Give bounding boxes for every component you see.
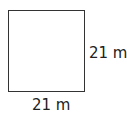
bottom-side-length-label: 21 m	[32, 98, 70, 113]
right-side-length-label: 21 m	[89, 46, 127, 61]
square-shape	[8, 10, 85, 92]
